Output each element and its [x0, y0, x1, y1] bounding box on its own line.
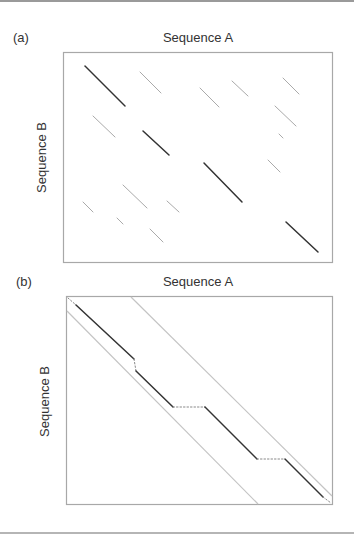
panel-b-band	[67, 297, 332, 504]
panel-a-weak-matches	[83, 72, 299, 242]
dot-plot-figure	[0, 0, 354, 535]
panel-b-alignment-path	[68, 298, 331, 503]
panel-b-frame	[67, 297, 333, 505]
bottom-rule	[0, 532, 354, 534]
panel-a-strong-matches	[85, 66, 318, 252]
